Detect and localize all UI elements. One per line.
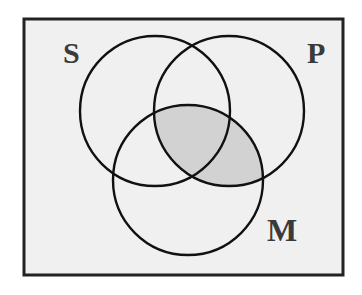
set-label-m: M [267, 212, 297, 248]
set-label-s: S [63, 36, 80, 69]
set-label-p: P [307, 36, 325, 69]
venn-diagram: S P M [0, 0, 362, 295]
venn-diagram-canvas: S P M [0, 0, 362, 295]
